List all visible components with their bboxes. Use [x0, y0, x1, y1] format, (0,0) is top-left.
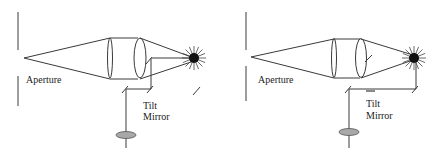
star-ray	[417, 61, 423, 67]
aperture-label: Aperture	[258, 74, 294, 85]
tilt-label: Tilt	[143, 100, 157, 111]
converge-bottom	[361, 60, 413, 78]
star-ray	[417, 50, 423, 56]
star-ray	[197, 50, 203, 56]
lens-2	[356, 39, 367, 78]
star-ray	[198, 60, 205, 63]
light-cone	[251, 39, 334, 78]
tilt-mirror-diagram: Aperture Tilt Mirror Aperture Tilt Mirro…	[0, 0, 445, 157]
aperture-label: Aperture	[26, 74, 62, 85]
star-ray	[196, 62, 199, 69]
star-ray	[418, 60, 425, 63]
star-ray	[183, 53, 190, 56]
left-panel: Aperture Tilt Mirror	[18, 12, 206, 148]
star-ray	[409, 47, 412, 54]
star-icon	[182, 46, 206, 70]
star-ray	[186, 50, 192, 56]
star-ray	[189, 47, 192, 54]
star-ray	[406, 50, 412, 56]
detector-icon	[339, 129, 359, 136]
star-core	[189, 53, 199, 63]
deflected-ray	[193, 87, 200, 95]
star-ray	[197, 61, 203, 67]
right-panel: Aperture Tilt Mirror	[246, 12, 426, 148]
star-icon	[402, 46, 426, 70]
light-cone	[24, 38, 110, 79]
star-ray	[196, 47, 199, 54]
converge-bottom	[140, 61, 194, 79]
star-ray	[416, 47, 419, 54]
mirror-label: Mirror	[143, 111, 170, 122]
detector-icon	[116, 132, 136, 139]
tilt-label: Tilt	[366, 98, 380, 109]
lens-2	[134, 38, 146, 78]
star-ray	[409, 62, 412, 69]
star-ray	[418, 53, 425, 56]
star-ray	[198, 53, 205, 56]
converge-top	[361, 39, 413, 55]
lens-1	[108, 38, 113, 78]
lens-1	[332, 39, 337, 78]
mirror-label: Mirror	[366, 110, 393, 121]
star-core	[409, 53, 419, 63]
